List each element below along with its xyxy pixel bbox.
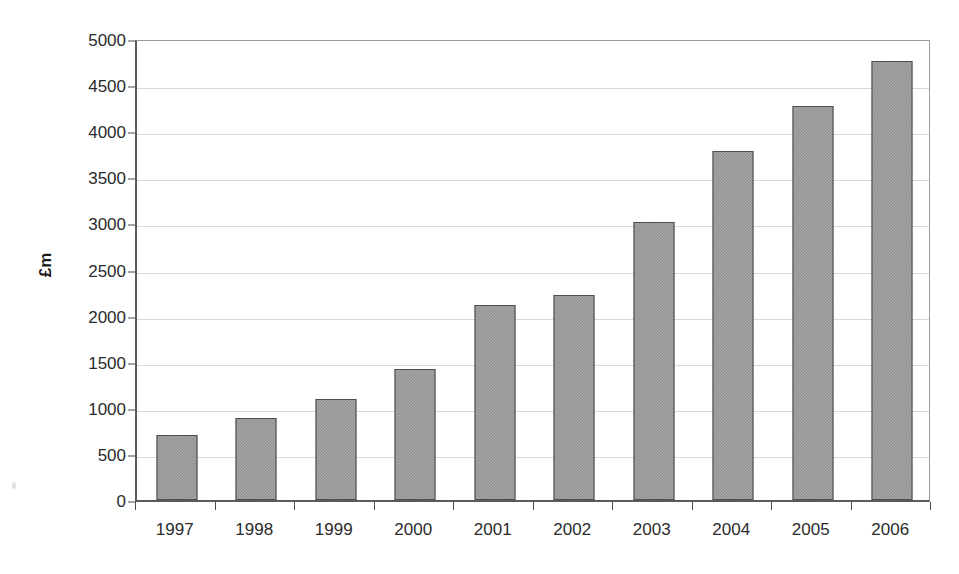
- y-axis-tick-label: 3500: [40, 169, 126, 189]
- y-axis-tick-label: 1000: [40, 400, 126, 420]
- bar[interactable]: [474, 305, 515, 500]
- x-axis-tick-label: 2006: [845, 520, 935, 540]
- bar-slot: [376, 41, 456, 500]
- x-axis-tick-mark: [692, 502, 693, 510]
- bar-slot: [773, 41, 853, 500]
- bar[interactable]: [315, 399, 356, 500]
- bar-slot: [217, 41, 297, 500]
- x-axis-tick-mark: [533, 502, 534, 510]
- y-axis-tick-mark: [128, 271, 135, 272]
- bar[interactable]: [633, 222, 674, 500]
- y-axis-tick-mark: [128, 317, 135, 318]
- bar[interactable]: [395, 369, 436, 500]
- y-axis-tick-mark: [128, 133, 135, 134]
- bar-slot: [614, 41, 694, 500]
- x-axis-tick-label: 1999: [289, 520, 379, 540]
- x-axis-tick-mark: [135, 502, 136, 510]
- y-axis-tick-label: 5000: [40, 31, 126, 51]
- bar-slot: [137, 41, 217, 500]
- y-axis-tick-label: 2000: [40, 308, 126, 328]
- x-axis-tick-mark: [930, 502, 931, 510]
- y-axis-tick-mark: [128, 41, 135, 42]
- y-axis-tick-label: 4500: [40, 77, 126, 97]
- y-axis-tick-mark: [128, 502, 135, 503]
- plot-area: [135, 40, 930, 502]
- x-axis-tick-mark: [851, 502, 852, 510]
- y-axis-tick-label: 1500: [40, 354, 126, 374]
- y-axis-tick-label: 500: [40, 446, 126, 466]
- x-axis-tick-label: 1997: [130, 520, 220, 540]
- y-axis-tick-label: 4000: [40, 123, 126, 143]
- bar[interactable]: [792, 106, 833, 500]
- y-axis-tick-mark: [128, 363, 135, 364]
- x-axis-tick-mark: [771, 502, 772, 510]
- bar-slot: [296, 41, 376, 500]
- y-axis-tick-mark: [128, 225, 135, 226]
- x-axis-tick-label: 2004: [686, 520, 776, 540]
- y-axis-tick-mark: [128, 455, 135, 456]
- y-axis-tick-label: 2500: [40, 262, 126, 282]
- x-axis-tick-label: 2005: [766, 520, 856, 540]
- bar-chart: £m 0500100015002000250030003500400045005…: [0, 0, 959, 574]
- scan-artifact-speck: [12, 482, 16, 489]
- x-axis-tick-mark: [374, 502, 375, 510]
- y-axis-tick-mark: [128, 409, 135, 410]
- bar-slot: [853, 41, 933, 500]
- x-axis-tick-label: 2001: [448, 520, 538, 540]
- x-axis-tick-mark: [294, 502, 295, 510]
- y-axis-tick-mark: [128, 179, 135, 180]
- bar-slot: [535, 41, 615, 500]
- x-axis-tick-label: 2000: [368, 520, 458, 540]
- bar[interactable]: [554, 295, 595, 500]
- bar-slot: [455, 41, 535, 500]
- bar[interactable]: [156, 435, 197, 500]
- bar[interactable]: [236, 418, 277, 500]
- bar[interactable]: [872, 61, 913, 500]
- x-axis-tick-mark: [453, 502, 454, 510]
- bar-slot: [694, 41, 774, 500]
- x-axis-tick-mark: [612, 502, 613, 510]
- bar[interactable]: [713, 151, 754, 500]
- x-axis-tick-mark: [215, 502, 216, 510]
- y-axis-tick-mark: [128, 87, 135, 88]
- x-axis-tick-label: 2003: [607, 520, 697, 540]
- y-axis-tick-label: 3000: [40, 215, 126, 235]
- x-axis-tick-label: 2002: [527, 520, 617, 540]
- y-axis-tick-label: 0: [40, 492, 126, 512]
- bars-layer: [137, 41, 929, 500]
- x-axis-tick-label: 1998: [209, 520, 299, 540]
- y-axis-tick-labels: 0500100015002000250030003500400045005000: [40, 41, 126, 502]
